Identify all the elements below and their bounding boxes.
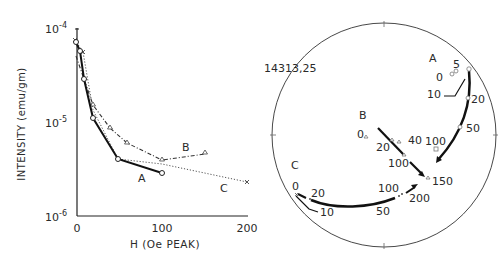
group-a: A 5 0 10 20 50 100 [425, 52, 485, 163]
svg-text:40: 40 [408, 134, 422, 147]
svg-text:150: 150 [432, 175, 453, 188]
x-tick-100: 100 [152, 222, 173, 235]
series-b-markers [91, 102, 208, 161]
svg-text:20: 20 [311, 187, 325, 200]
svg-text:10: 10 [427, 88, 441, 101]
figure: 10-4 10-5 10-6 0 100 200 H (Oe PEAK) INT… [0, 0, 503, 261]
y-tick-1e-4: 10-4 [45, 21, 67, 36]
svg-text:200: 200 [409, 192, 430, 205]
y-tick-1e-5: 10-5 [45, 115, 67, 130]
group-b: B 0 20 40 100 150 [357, 109, 453, 188]
x-tick-0: 0 [74, 222, 81, 235]
intensity-chart: 10-4 10-5 10-6 0 100 200 H (Oe PEAK) INT… [16, 21, 258, 250]
y-tick-1e-6: 10-6 [45, 209, 67, 224]
svg-text:50: 50 [376, 205, 390, 218]
svg-text:20: 20 [471, 93, 485, 106]
svg-text:100: 100 [388, 157, 409, 170]
sample-label: 14313,25 [264, 62, 317, 75]
svg-text:20: 20 [376, 141, 390, 154]
label-c: C [220, 182, 228, 195]
x-tick-200: 200 [237, 222, 258, 235]
svg-text:50: 50 [466, 122, 480, 135]
x-axis-label: H (Oe PEAK) [130, 238, 200, 250]
svg-text:C: C [291, 159, 299, 172]
label-a: A [138, 172, 146, 185]
stereonet: 14313,25 A 5 0 10 20 50 100 B [264, 21, 498, 249]
svg-text:0: 0 [292, 180, 299, 193]
series-c-markers [73, 38, 249, 184]
label-b: B [182, 141, 190, 154]
group-c: C 0 20 10 50 100 200 [291, 159, 430, 219]
svg-text:B: B [359, 109, 367, 122]
svg-text:A: A [429, 52, 437, 65]
y-axis-label: INTENSITY (emu/gm) [16, 67, 27, 181]
svg-text:0: 0 [357, 128, 364, 141]
svg-text:0: 0 [436, 71, 443, 84]
svg-text:100: 100 [425, 135, 446, 148]
svg-text:10: 10 [320, 206, 334, 219]
svg-text:100: 100 [378, 182, 399, 195]
